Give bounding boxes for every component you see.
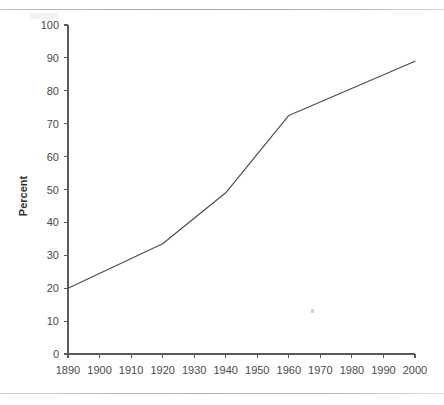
line-chart-figure: 0102030405060708090100 18901900191019201…: [0, 0, 444, 405]
x-tick-label: 2000: [403, 364, 427, 376]
data-series-group: [68, 61, 415, 288]
y-tick-label: 40: [47, 216, 59, 228]
y-tick-label: 30: [47, 249, 59, 261]
y-tick-label: 10: [47, 315, 59, 327]
y-axis: 0102030405060708090100: [41, 19, 68, 360]
y-tick-label: 50: [47, 184, 59, 196]
y-tick-label: 20: [47, 282, 59, 294]
y-tick-label: 70: [47, 118, 59, 130]
x-tick-label: 1920: [150, 364, 174, 376]
x-tick-label: 1970: [308, 364, 332, 376]
x-tick-label: 1890: [56, 364, 80, 376]
x-tick-label: 1900: [87, 364, 111, 376]
y-tick-label: 100: [41, 19, 59, 31]
x-tick-label: 1950: [245, 364, 269, 376]
x-axis: 1890190019101920193019401950196019701980…: [56, 354, 427, 376]
y-axis-title: Percent: [17, 175, 29, 216]
x-tick-label: 1960: [277, 364, 301, 376]
y-tick-label: 0: [53, 348, 59, 360]
chart-canvas: 0102030405060708090100 18901900191019201…: [0, 0, 444, 405]
x-tick-label: 1990: [371, 364, 395, 376]
y-tick-label: 90: [47, 52, 59, 64]
y-tick-label: 80: [47, 85, 59, 97]
x-tick-label: 1910: [119, 364, 143, 376]
y-tick-label: 60: [47, 151, 59, 163]
series-line-percent: [68, 61, 415, 288]
x-tick-label: 1980: [340, 364, 364, 376]
x-tick-label: 1940: [213, 364, 237, 376]
x-tick-label: 1930: [182, 364, 206, 376]
